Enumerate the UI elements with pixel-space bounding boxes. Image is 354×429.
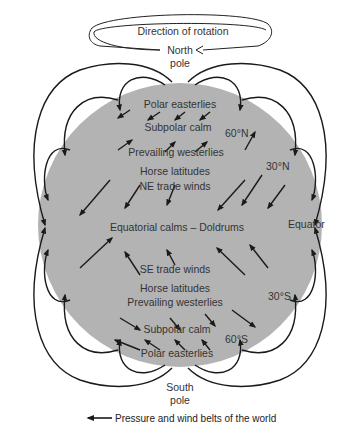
lat-30n-label: 30°N — [266, 160, 289, 172]
south-pole-line2: pole — [166, 394, 193, 407]
rotation-label: Direction of rotation — [137, 25, 228, 37]
lat-60s-label: 60°S — [225, 333, 248, 345]
south-horse-latitudes-label: Horse latitudes — [140, 282, 210, 294]
north-pole-line1: North — [167, 44, 193, 57]
lat-30s-label: 30°S — [268, 290, 291, 302]
north-prevailing-westerlies-label: Prevailing westerlies — [128, 146, 224, 158]
south-polar-easterlies-label: Polar easterlies — [141, 347, 213, 359]
se-trade-winds-label: SE trade winds — [140, 263, 211, 275]
south-subpolar-calm-label: Subpolar calm — [143, 323, 210, 335]
south-pole-line1: South — [166, 381, 193, 394]
north-pole-label: North pole — [167, 44, 193, 70]
north-polar-easterlies-label: Polar easterlies — [144, 98, 216, 110]
doldrums-label: Equatorial calms – Doldrums — [110, 221, 244, 233]
north-subpolar-calm-label: Subpolar calm — [144, 121, 211, 133]
ne-trade-winds-label: NE trade winds — [139, 180, 210, 192]
equator-label: Equator — [288, 218, 325, 230]
lat-60n-label: 60°N — [225, 127, 248, 139]
north-pole-line2: pole — [167, 57, 193, 70]
caption: Pressure and wind belts of the world — [85, 413, 276, 424]
north-horse-latitudes-label: Horse latitudes — [140, 165, 210, 177]
south-pole-label: South pole — [166, 381, 193, 407]
south-prevailing-westerlies-label: Prevailing westerlies — [127, 296, 223, 308]
caption-text: Pressure and wind belts of the world — [115, 413, 276, 424]
